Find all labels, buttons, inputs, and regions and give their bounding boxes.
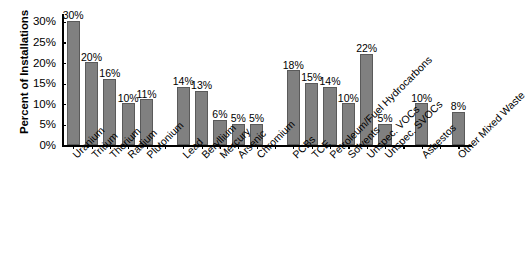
y-axis-title: Percent of Installations (18, 2, 30, 142)
y-tick-mark (62, 22, 66, 23)
bar-value-label: 10% (332, 92, 364, 104)
y-tick-mark (62, 42, 66, 43)
bar (67, 21, 80, 145)
y-tick-mark (62, 63, 66, 64)
bar-value-label: 30% (57, 9, 89, 21)
y-tick-label: 20% (33, 57, 56, 69)
bar-value-label: 14% (314, 75, 346, 87)
y-tick-label: 10% (33, 98, 56, 110)
y-tick-mark (62, 146, 66, 147)
bar-value-label: 11% (131, 88, 163, 100)
y-tick-label: 15% (33, 77, 56, 89)
bar-value-label: 8% (442, 100, 474, 112)
bar (177, 87, 190, 145)
y-tick-mark (62, 125, 66, 126)
bar-value-label: 16% (94, 67, 126, 79)
y-tick-label: 25% (33, 36, 56, 48)
bar-value-label: 18% (277, 59, 309, 71)
y-axis-line (62, 14, 64, 146)
bar-value-label: 5% (241, 112, 273, 124)
y-tick-label: 5% (39, 118, 56, 130)
y-tick-label: 0% (39, 139, 56, 151)
bar-value-label: 22% (351, 42, 383, 54)
y-tick-label: 30% (33, 15, 56, 27)
y-tick-mark (62, 84, 66, 85)
y-tick-mark (62, 104, 66, 105)
bar-value-label: 13% (186, 79, 218, 91)
bar-value-label: 20% (76, 51, 108, 63)
